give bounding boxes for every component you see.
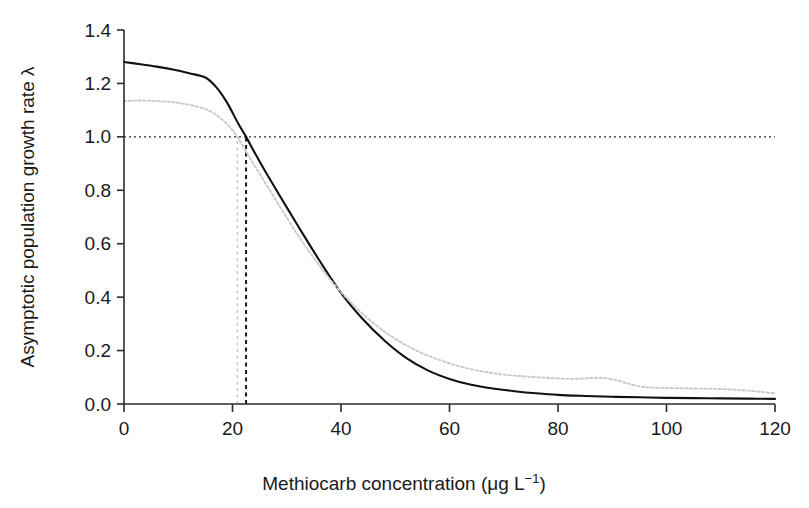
y-tick-label: 0.4: [85, 287, 112, 308]
x-tick-label: 60: [439, 418, 460, 439]
chart-canvas: 0.00.20.40.60.81.01.21.4 020406080100120…: [0, 0, 809, 508]
y-tick-label: 0.8: [85, 180, 111, 201]
x-axis-title-superscript: −1: [525, 471, 540, 486]
x-axis-title-main: Methiocarb concentration (μg L: [262, 473, 524, 494]
y-tick-label: 1.0: [85, 126, 111, 147]
x-tick-label: 100: [651, 418, 683, 439]
y-tick-label: 0.0: [85, 394, 111, 415]
x-tick-label: 80: [547, 418, 568, 439]
x-tick-label: 20: [222, 418, 243, 439]
figure-root: 0.00.20.40.60.81.01.21.4 020406080100120…: [0, 0, 809, 508]
x-axis-title-tail: ): [539, 473, 545, 494]
x-axis-title: Methiocarb concentration (μg L−1): [262, 471, 545, 494]
y-tick-label: 0.2: [85, 340, 111, 361]
y-tick-label: 1.4: [85, 20, 112, 41]
y-axis-title: Asymptotic population growth rate λ: [17, 66, 38, 367]
x-tick-label: 0: [119, 418, 130, 439]
y-tick-label: 1.2: [85, 73, 111, 94]
x-tick-label: 40: [330, 418, 351, 439]
y-tick-label: 0.6: [85, 233, 111, 254]
x-tick-label: 120: [759, 418, 791, 439]
